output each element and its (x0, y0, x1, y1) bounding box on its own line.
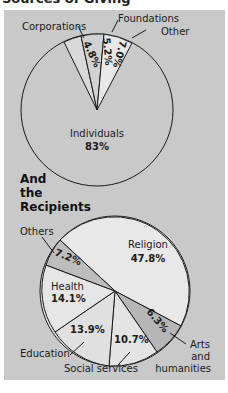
recipients-heading-line1: And (20, 172, 46, 186)
recipients-heading-line2: the (20, 186, 42, 200)
label-others: Others (20, 226, 54, 237)
label-other: Other (161, 26, 190, 37)
label-arts-2: and (191, 351, 210, 362)
label-religion: Religion (128, 239, 168, 250)
pct-religion: 47.8% (131, 253, 166, 264)
label-arts-1: Arts (190, 339, 210, 350)
pct-education: 13.9% (70, 324, 105, 335)
pct-health: 14.1% (51, 293, 86, 304)
label-foundations: Foundations (118, 13, 179, 24)
pct-individuals: 83% (85, 141, 109, 152)
pct-social-services: 10.7% (114, 334, 149, 345)
label-health: Health (51, 281, 84, 292)
charts-svg: Corporations Foundations Other 4.8% 5.2%… (0, 0, 228, 393)
recipients-heading-line3: Recipients (20, 200, 91, 214)
label-education: Education (20, 348, 70, 359)
label-corporations: Corporations (22, 21, 86, 32)
label-individuals: Individuals (70, 128, 124, 139)
label-arts-3: humanities (155, 363, 211, 374)
label-social-services: Social services (64, 363, 138, 374)
